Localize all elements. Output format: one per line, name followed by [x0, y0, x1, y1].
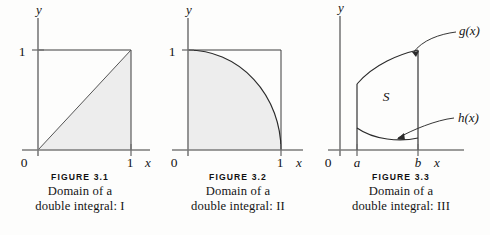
y-tick-label-1: 1 — [19, 44, 26, 59]
leader-arrowhead-h — [397, 133, 405, 140]
figure-3-3-caption-line-1: Domain of a — [312, 184, 490, 199]
figure-3-2-number: FIGURE 3.2 — [158, 172, 318, 182]
y-axis-label: y — [34, 2, 42, 17]
leader-line-h — [398, 118, 454, 138]
origin-label: 0 — [21, 155, 28, 170]
x-axis-label: x — [295, 155, 302, 170]
leader-line-g — [413, 32, 456, 53]
figure-3-1-caption: FIGURE 3.1 Domain of a double integral: … — [0, 172, 160, 215]
figure-3-3-number: FIGURE 3.3 — [312, 172, 490, 182]
figure-3-3-caption: FIGURE 3.3 Domain of a double integral: … — [312, 172, 490, 215]
y-axis-label: y — [336, 0, 344, 15]
y-tick-label-1: 1 — [169, 44, 176, 59]
x-tick-label-b: b — [415, 155, 422, 170]
lower-curve-h — [357, 128, 418, 140]
y-axis-label: y — [184, 2, 192, 17]
figure-3-1-number: FIGURE 3.1 — [0, 172, 160, 182]
curve-label-h: h(x) — [458, 110, 479, 125]
figure-3-2: y 1 0 1 x FIGURE 3.2 Domain of a double … — [158, 0, 318, 235]
figure-3-2-caption-line-1: Domain of a — [158, 184, 318, 199]
figure-3-3: y 0 a b x S g(x) h(x) FIGURE 3.3 Domain … — [312, 0, 490, 235]
figure-3-2-caption-line-2: double integral: II — [158, 199, 318, 214]
upper-curve-g — [357, 50, 418, 84]
x-tick-label-a: a — [354, 155, 361, 170]
figure-3-1-caption-line-1: Domain of a — [0, 184, 160, 199]
x-axis-label: x — [144, 155, 151, 170]
x-tick-label-1: 1 — [127, 155, 134, 170]
curve-label-g: g(x) — [459, 23, 480, 38]
x-tick-label-1: 1 — [277, 155, 284, 170]
x-axis-label: x — [433, 155, 440, 170]
figure-3-3-caption-line-2: double integral: III — [312, 199, 490, 214]
origin-label: 0 — [325, 155, 332, 170]
figure-3-2-plot: y 1 0 1 x — [158, 0, 318, 172]
figure-3-2-caption: FIGURE 3.2 Domain of a double integral: … — [158, 172, 318, 215]
figure-3-1: y 1 0 1 x FIGURE 3.1 Domain of a double … — [0, 0, 160, 235]
region-label-S: S — [383, 89, 390, 104]
figure-3-3-plot: y 0 a b x S g(x) h(x) — [312, 0, 490, 172]
origin-label: 0 — [171, 155, 178, 170]
figure-page: y 1 0 1 x FIGURE 3.1 Domain of a double … — [0, 0, 490, 235]
figure-3-1-plot: y 1 0 1 x — [0, 0, 160, 172]
figure-3-1-caption-line-2: double integral: I — [0, 199, 160, 214]
shaded-region — [188, 50, 281, 150]
